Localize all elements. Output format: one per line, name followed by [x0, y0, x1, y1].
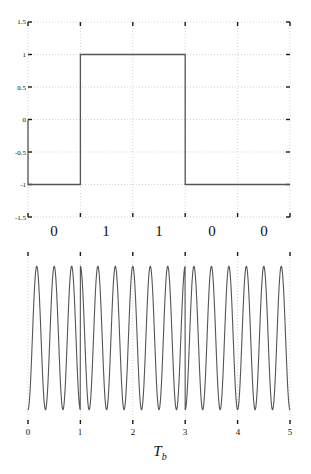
x-axis-title: Tb [130, 443, 190, 462]
x-axis-title-main: T [153, 443, 161, 459]
bottom-xtick-label-1: 1 [70, 428, 90, 437]
bpsk-signal-plot [0, 0, 311, 474]
bottom-xtick-label-0: 0 [18, 428, 38, 437]
bottom-xtick-label-5: 5 [280, 428, 300, 437]
bpsk-figure: 1.5 1 0.5 0 -0.5 -1 -1.5 0 1 1 0 0 0 1 2… [0, 0, 311, 474]
bpsk-signal-trace [28, 266, 290, 409]
bottom-xtick-label-4: 4 [228, 428, 248, 437]
bottom-plot-group [28, 252, 290, 424]
x-axis-title-subscript: b [162, 451, 167, 462]
bottom-xtick-label-3: 3 [175, 428, 195, 437]
bottom-xtick-label-2: 2 [123, 428, 143, 437]
